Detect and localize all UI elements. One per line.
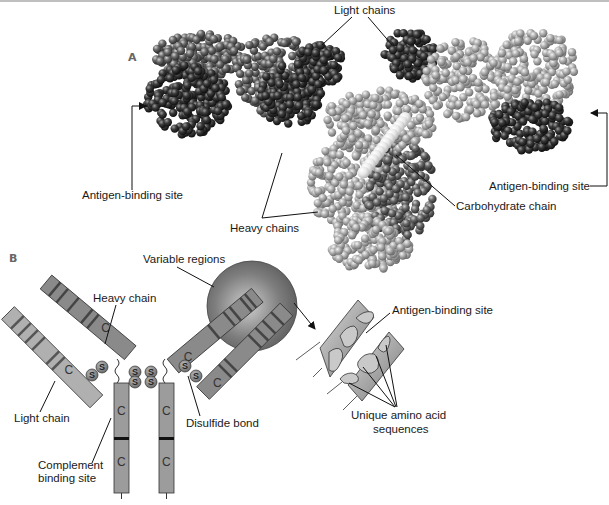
carbohydrate-chain-label: Carbohydrate chain <box>456 200 556 212</box>
antigen-binding-left-label: Antigen-binding site <box>82 189 183 201</box>
svg-text:S: S <box>132 377 138 387</box>
light-chain-label: Light chain <box>14 412 70 424</box>
antigen-binding-left-arrow <box>132 106 146 190</box>
svg-text:S: S <box>99 362 105 372</box>
panel-b-label: B <box>9 252 17 265</box>
antibody-space-filling-model <box>143 29 579 273</box>
panel-a-label: A <box>128 51 137 64</box>
light-chains-leader-right <box>368 17 392 45</box>
svg-text:S: S <box>193 371 199 381</box>
svg-text:C: C <box>65 363 74 377</box>
svg-text:S: S <box>148 377 154 387</box>
svg-text:C: C <box>101 321 110 335</box>
right-heavy-chain-stem: C C <box>159 383 174 499</box>
svg-text:C: C <box>162 455 171 469</box>
zoom-arrow <box>294 303 315 329</box>
unique-sequences-line2: sequences <box>373 423 429 435</box>
svg-text:S: S <box>182 361 188 371</box>
heavy-chain-label: Heavy chain <box>93 292 156 304</box>
complement-leader <box>92 418 111 463</box>
svg-text:C: C <box>213 376 222 390</box>
complement-label-line2: binding site <box>38 472 96 484</box>
variable-regions-label: Variable regions <box>143 253 226 265</box>
panel-b-schematic: B C C <box>2 252 493 499</box>
hinge-right <box>163 359 167 383</box>
antigen-binding-right-arrow <box>590 113 607 186</box>
variable-regions-leader <box>177 267 214 287</box>
antigen-binding-site-label: Antigen-binding site <box>392 304 493 316</box>
left-heavy-chain-stem: C C <box>114 383 129 499</box>
svg-text:C: C <box>117 404 126 418</box>
complement-label-line1: Complement <box>38 459 104 471</box>
heavy-chains-label: Heavy chains <box>230 222 299 234</box>
disulfide-bonds: SSSSSSSS <box>86 360 202 388</box>
antibody-diagram: A Light chains Antigen-binding site Anti… <box>0 0 609 505</box>
antigen-binding-right-label: Antigen-binding site <box>489 180 590 192</box>
hinge-left <box>115 359 119 383</box>
light-chains-label: Light chains <box>334 4 396 16</box>
light-chain-leader <box>40 381 55 412</box>
panel-a-molecular-model: A Light chains Antigen-binding site Anti… <box>82 4 607 273</box>
svg-text:C: C <box>162 404 171 418</box>
svg-text:C: C <box>117 455 126 469</box>
unique-sequences-line1: Unique amino acid <box>351 409 446 421</box>
antigen-binding-site-detail: Antigen-binding site Unique amino acid s… <box>296 300 493 435</box>
svg-text:S: S <box>89 370 95 380</box>
disulfide-bond-label: Disulfide bond <box>186 417 259 429</box>
light-chains-leader-left <box>322 17 352 45</box>
